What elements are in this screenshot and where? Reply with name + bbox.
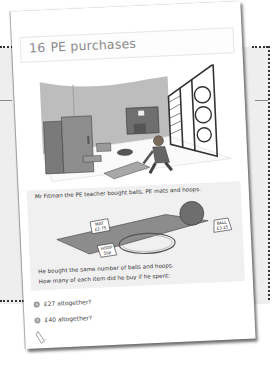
divider <box>255 100 268 101</box>
pencil-icon <box>35 330 48 345</box>
title-box: 16PE purchases <box>20 27 235 63</box>
page-title-text: PE purchases <box>50 36 136 55</box>
page-number: 16 <box>29 40 46 56</box>
question-badge-b: b <box>34 318 40 324</box>
mat-ball-hoop-image: MAT £2.75 BALL £3.25 HOOP 50p <box>47 193 240 266</box>
question-a: a£27 altogether? <box>34 298 92 308</box>
dotted-border <box>0 300 24 302</box>
dotted-border <box>268 46 270 300</box>
worksheet-page: 16PE purchases <box>10 1 255 349</box>
question-a-text: £27 altogether? <box>44 298 92 307</box>
question-badge-a: a <box>34 302 40 308</box>
question-b: b£40 altogether? <box>34 314 92 324</box>
gym-scene-image <box>27 63 236 184</box>
page-title: 16PE purchases <box>29 36 137 56</box>
dotted-border <box>252 46 268 48</box>
divider <box>0 100 12 101</box>
question-b-text: £40 altogether? <box>44 314 92 323</box>
gym-illustration <box>27 63 236 184</box>
problem-question: How many of each item did he buy if he s… <box>39 272 170 284</box>
items-illustration: MAT £2.75 BALL £3.25 HOOP 50p <box>47 193 240 266</box>
problem-panel: Mr Fitman the PE teacher bought balls, P… <box>27 181 245 291</box>
